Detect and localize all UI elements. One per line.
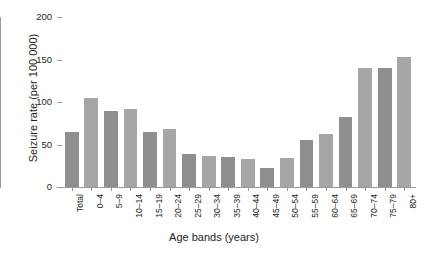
x-axis-tick bbox=[209, 188, 210, 191]
x-axis-tick-label: 15–19 bbox=[154, 194, 164, 218]
x-axis-tick bbox=[404, 188, 405, 191]
x-axis-tick-label: 20–24 bbox=[173, 194, 183, 218]
x-axis-tick-label: 45–49 bbox=[271, 194, 281, 218]
x-axis-tick-label: 80+ bbox=[408, 194, 418, 208]
x-axis-tick bbox=[248, 188, 249, 191]
x-axis-tick-label: 60–64 bbox=[330, 194, 340, 218]
y-axis-tick-label: 0 bbox=[6, 181, 52, 192]
x-axis-tick bbox=[346, 188, 347, 191]
x-axis-tick-label: 10–14 bbox=[134, 194, 144, 218]
y-axis-tick-label-wrap: 0 bbox=[0, 187, 52, 188]
x-axis-tick-label: Total bbox=[75, 194, 85, 212]
y-axis-tick-label-wrap: 200 bbox=[0, 17, 52, 18]
y-axis-tick-label: 50 bbox=[6, 139, 52, 150]
bar bbox=[260, 168, 274, 187]
x-axis-tick bbox=[267, 188, 268, 191]
x-axis-tick bbox=[170, 188, 171, 191]
x-axis-ticks: Total0–45–910–1415–1920–2425–2930–3435–3… bbox=[62, 189, 414, 229]
bar bbox=[300, 140, 314, 187]
x-axis-tick bbox=[72, 188, 73, 191]
y-axis-tick-label: 200 bbox=[6, 11, 52, 22]
bar bbox=[124, 109, 138, 187]
x-axis-tick-label: 40–44 bbox=[251, 194, 261, 218]
x-axis-tick bbox=[130, 188, 131, 191]
bar bbox=[221, 157, 235, 187]
x-axis-tick-label: 0–4 bbox=[95, 194, 105, 208]
bar bbox=[163, 129, 177, 187]
x-axis-title: Age bands (years) bbox=[0, 231, 428, 243]
x-axis-tick-label: 5–9 bbox=[114, 194, 124, 208]
x-axis-tick bbox=[111, 188, 112, 191]
bar bbox=[143, 132, 157, 187]
y-axis-tick-label-wrap: 50 bbox=[0, 145, 52, 146]
bar bbox=[339, 117, 353, 187]
x-axis-tick-label: 30–34 bbox=[212, 194, 222, 218]
bar bbox=[104, 111, 118, 188]
bar bbox=[182, 154, 196, 187]
bar bbox=[65, 132, 79, 187]
x-axis-tick bbox=[150, 188, 151, 191]
y-axis-tick bbox=[57, 187, 62, 188]
x-axis-tick bbox=[228, 188, 229, 191]
y-axis-tick-label: 150 bbox=[6, 54, 52, 65]
bar bbox=[241, 159, 255, 187]
x-axis-tick-label: 65–69 bbox=[349, 194, 359, 218]
bar bbox=[378, 68, 392, 187]
x-axis-tick bbox=[385, 188, 386, 191]
x-axis-tick-label: 25–29 bbox=[193, 194, 203, 218]
bar bbox=[280, 158, 294, 187]
x-axis-tick-label: 35–39 bbox=[232, 194, 242, 218]
y-axis-tick-label-wrap: 100 bbox=[0, 102, 52, 103]
y-axis-tick-label-wrap: 150 bbox=[0, 60, 52, 61]
bar bbox=[319, 134, 333, 187]
bar bbox=[84, 98, 98, 187]
bar bbox=[358, 68, 372, 187]
bar bbox=[397, 57, 411, 187]
bars-layer bbox=[62, 17, 414, 187]
x-axis-tick bbox=[287, 188, 288, 191]
x-axis-tick bbox=[365, 188, 366, 191]
x-axis-tick-label: 75–79 bbox=[388, 194, 398, 218]
chart-figure: Seizure rate (per 100 000) 050100150200 … bbox=[0, 0, 428, 253]
x-axis-tick bbox=[326, 188, 327, 191]
x-axis-tick bbox=[91, 188, 92, 191]
bar bbox=[202, 156, 216, 187]
x-axis-tick-label: 70–74 bbox=[369, 194, 379, 218]
x-axis-tick-label: 50–54 bbox=[290, 194, 300, 218]
y-axis-tick-label: 100 bbox=[6, 96, 52, 107]
x-axis-tick bbox=[306, 188, 307, 191]
x-axis-tick-label: 55–59 bbox=[310, 194, 320, 218]
x-axis-tick bbox=[189, 188, 190, 191]
